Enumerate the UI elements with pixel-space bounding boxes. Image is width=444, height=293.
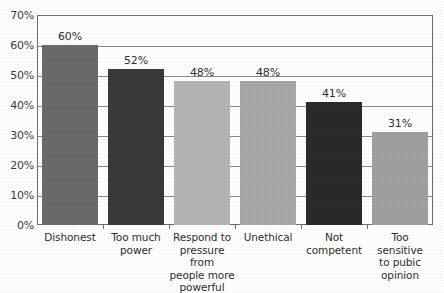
x-axis-category-label: Too sensitiveto pubicopinion (367, 231, 433, 281)
x-axis-category-label-line: power (103, 244, 169, 257)
x-axis-tick (169, 225, 170, 229)
x-axis-category-label-line: Unethical (235, 231, 301, 244)
bar-value-label: 48% (235, 67, 301, 79)
bar-value-label: 48% (169, 67, 235, 79)
bar[interactable] (42, 45, 98, 225)
x-axis-category-label-line: opinion (367, 269, 433, 282)
x-axis-category-label-line: Too much (103, 231, 169, 244)
bar-group[interactable]: 60% (37, 15, 103, 225)
bar[interactable] (306, 102, 362, 225)
x-axis: DishonestToo muchpowerRespond topressure… (37, 231, 433, 289)
x-axis-tick (301, 225, 302, 229)
x-axis-category-label-line: Respond to (169, 231, 235, 244)
bar-group[interactable]: 41% (301, 15, 367, 225)
bar-value-label: 52% (103, 55, 169, 67)
x-axis-tick (103, 225, 104, 229)
y-axis-tick-label: 10% (0, 190, 34, 201)
x-axis-category-label-line: powerful (169, 281, 235, 293)
bar[interactable] (108, 69, 164, 225)
bar[interactable] (174, 81, 230, 225)
y-axis-tick-label: 0% (0, 220, 34, 231)
bar-value-label: 41% (301, 88, 367, 100)
x-axis-category-label: Too muchpower (103, 231, 169, 256)
bar-group[interactable]: 31% (367, 15, 433, 225)
bar-group[interactable]: 48% (235, 15, 301, 225)
x-axis-category-label-line: Dishonest (37, 231, 103, 244)
bar-value-label: 60% (37, 31, 103, 43)
x-axis-category-label-line: to pubic (367, 256, 433, 269)
x-axis-category-label: Unethical (235, 231, 301, 244)
bar-value-label: 31% (367, 118, 433, 130)
bars-layer: 60%52%48%48%41%31% (37, 15, 433, 225)
y-axis-tick-label: 20% (0, 160, 34, 171)
bar[interactable] (240, 81, 296, 225)
bar-chart: 0%10%20%30%40%50%60%70% 60%52%48%48%41%3… (0, 0, 444, 293)
x-axis-tick (235, 225, 236, 229)
x-axis-category-label-line: people more (169, 269, 235, 282)
bar-group[interactable]: 48% (169, 15, 235, 225)
x-axis-category-label-line: Not (301, 231, 367, 244)
x-axis-category-label: Respond topressure frompeople morepowerf… (169, 231, 235, 293)
y-axis-tick-label: 60% (0, 40, 34, 51)
y-axis-tick-label: 70% (0, 10, 34, 21)
x-axis-tick (367, 225, 368, 229)
bar-group[interactable]: 52% (103, 15, 169, 225)
x-axis-category-label: Notcompetent (301, 231, 367, 256)
y-axis-tick-label: 50% (0, 70, 34, 81)
x-axis-category-label-line: competent (301, 244, 367, 257)
y-axis-tick-label: 30% (0, 130, 34, 141)
bar[interactable] (372, 132, 428, 225)
y-axis-tick-label: 40% (0, 100, 34, 111)
x-axis-category-label-line: Too sensitive (367, 231, 433, 256)
y-axis: 0%10%20%30%40%50%60%70% (0, 0, 34, 293)
x-axis-category-label-line: pressure from (169, 244, 235, 269)
x-axis-ticks (37, 225, 433, 230)
x-axis-category-label: Dishonest (37, 231, 103, 244)
